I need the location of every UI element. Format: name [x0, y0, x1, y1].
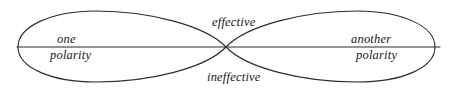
label-right-polarity-lower: polarity [356, 49, 397, 62]
label-right-polarity-upper: another [351, 33, 391, 46]
label-effective: effective [212, 16, 255, 29]
label-left-polarity-upper: one [57, 33, 76, 46]
label-left-polarity-lower: polarity [50, 49, 91, 62]
label-ineffective: ineffective [207, 71, 261, 84]
polarity-diagram-figure: one polarity another polarity effective … [0, 0, 452, 92]
